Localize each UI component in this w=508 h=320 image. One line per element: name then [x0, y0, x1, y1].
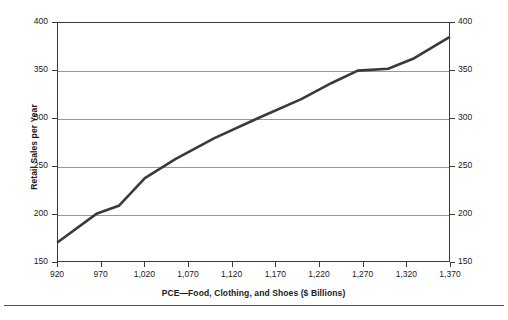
chart-figure: Retail Sales per Year 9209701,0201,0701,…	[0, 0, 508, 320]
y-tick-mark-left-300	[52, 118, 57, 119]
x-tick-mark-920	[57, 262, 58, 267]
y-tick-label-right-300: 300	[458, 112, 506, 122]
y-tick-mark-left-150	[52, 262, 57, 263]
y-tick-mark-left-200	[52, 214, 57, 215]
y-tick-mark-right-400	[450, 22, 455, 23]
y-tick-label-left-350: 350	[0, 64, 48, 74]
y-tick-label-right-250: 250	[458, 160, 506, 170]
y-tick-mark-right-150	[450, 262, 455, 263]
x-tick-label-1,370: 1,370	[420, 269, 480, 279]
y-tick-label-right-400: 400	[458, 16, 506, 26]
footer-divider	[4, 305, 504, 306]
y-tick-mark-right-300	[450, 118, 455, 119]
plot-area	[57, 22, 450, 262]
y-tick-label-right-150: 150	[458, 256, 506, 266]
y-tick-mark-right-200	[450, 214, 455, 215]
y-tick-mark-right-250	[450, 166, 455, 167]
y-tick-label-right-200: 200	[458, 208, 506, 218]
x-tick-mark-1,070	[188, 262, 189, 267]
data-line-layer	[58, 23, 449, 261]
x-tick-mark-970	[101, 262, 102, 267]
series-line-0	[58, 37, 449, 242]
y-tick-mark-right-350	[450, 70, 455, 71]
y-tick-label-right-350: 350	[458, 64, 506, 74]
x-tick-mark-1,320	[406, 262, 407, 267]
y-tick-mark-left-400	[52, 22, 57, 23]
x-tick-mark-1,220	[319, 262, 320, 267]
y-tick-label-left-250: 250	[0, 160, 48, 170]
x-axis-title: PCE—Food, Clothing, and Shoes ($ Billion…	[57, 288, 450, 298]
y-tick-mark-left-250	[52, 166, 57, 167]
x-tick-mark-1,120	[232, 262, 233, 267]
y-tick-label-left-200: 200	[0, 208, 48, 218]
y-tick-label-left-300: 300	[0, 112, 48, 122]
y-tick-mark-left-350	[52, 70, 57, 71]
y-tick-label-left-150: 150	[0, 256, 48, 266]
y-tick-label-left-400: 400	[0, 16, 48, 26]
x-tick-mark-1,020	[144, 262, 145, 267]
x-tick-mark-1,270	[363, 262, 364, 267]
x-tick-mark-1,170	[275, 262, 276, 267]
